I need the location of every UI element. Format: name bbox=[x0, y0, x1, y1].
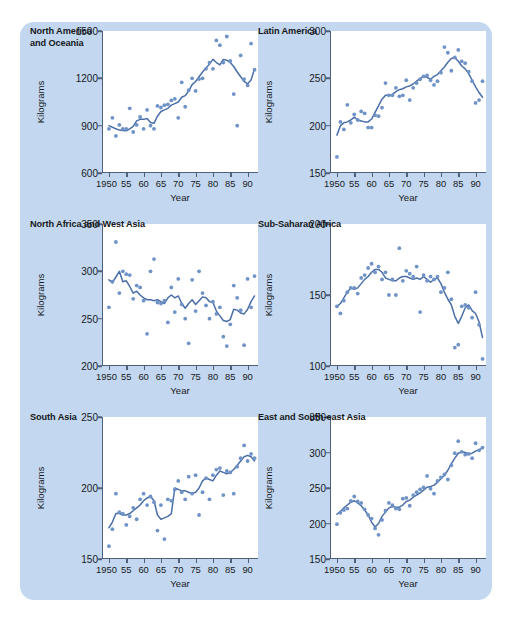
plot-wrap bbox=[102, 31, 258, 173]
x-tick-mark bbox=[458, 173, 460, 177]
data-point bbox=[335, 522, 339, 526]
y-tick-mark bbox=[98, 172, 102, 174]
data-point bbox=[397, 94, 401, 98]
data-point bbox=[111, 527, 115, 531]
data-point bbox=[187, 475, 191, 479]
data-point bbox=[107, 127, 111, 131]
x-tick-label: 1950 bbox=[96, 564, 117, 575]
data-point bbox=[176, 277, 180, 281]
x-axis-title: Year bbox=[330, 385, 486, 396]
plot-svg bbox=[330, 224, 486, 366]
data-point bbox=[377, 533, 381, 537]
data-point bbox=[156, 529, 160, 533]
y-tick-label: 900 bbox=[81, 120, 98, 131]
data-point bbox=[470, 456, 474, 460]
data-point bbox=[208, 317, 212, 321]
data-point bbox=[429, 78, 433, 82]
x-tick-label: 55 bbox=[349, 178, 359, 189]
x-tick-label: 55 bbox=[121, 371, 131, 382]
x-tick-label: 80 bbox=[208, 564, 218, 575]
x-tick-label: 85 bbox=[225, 178, 235, 189]
y-tick-mark bbox=[98, 125, 102, 127]
x-tick-mark bbox=[406, 366, 408, 370]
x-tick-label: 55 bbox=[121, 564, 131, 575]
data-point bbox=[131, 297, 135, 301]
data-point bbox=[169, 286, 173, 290]
data-point bbox=[467, 306, 471, 310]
data-point bbox=[121, 512, 125, 516]
data-point bbox=[235, 124, 239, 128]
y-tick-labels: 100150200 bbox=[298, 224, 326, 366]
data-point bbox=[107, 544, 111, 548]
data-point bbox=[453, 56, 457, 60]
data-point bbox=[228, 59, 232, 63]
data-point bbox=[422, 485, 426, 489]
x-axis-title: Year bbox=[330, 192, 486, 203]
x-tick-mark bbox=[230, 173, 232, 177]
y-tick-label: 300 bbox=[81, 266, 98, 277]
data-point bbox=[397, 246, 401, 250]
data-point bbox=[152, 257, 156, 261]
x-tick-mark bbox=[476, 366, 478, 370]
data-point bbox=[221, 335, 225, 339]
data-point bbox=[242, 77, 246, 81]
data-point bbox=[194, 473, 198, 477]
data-point bbox=[363, 111, 367, 115]
data-point bbox=[204, 304, 208, 308]
data-point bbox=[439, 71, 443, 75]
data-point bbox=[384, 270, 388, 274]
x-tick-label: 1950 bbox=[324, 178, 345, 189]
data-point bbox=[114, 134, 118, 138]
y-axis-title: Kilograms bbox=[35, 81, 46, 124]
data-point bbox=[387, 93, 391, 97]
data-point bbox=[384, 509, 388, 513]
data-point bbox=[138, 497, 142, 501]
data-point bbox=[460, 304, 464, 308]
x-tick-label: 60 bbox=[138, 178, 148, 189]
y-tick-mark bbox=[98, 318, 102, 320]
panel-title: North America and Oceania bbox=[30, 26, 92, 49]
data-point bbox=[363, 507, 367, 511]
data-point bbox=[425, 279, 429, 283]
x-tick-mark bbox=[337, 173, 339, 177]
y-tick-labels: 150200250 bbox=[70, 417, 98, 559]
data-point bbox=[221, 61, 225, 65]
x-tick-label: 75 bbox=[418, 178, 428, 189]
data-point bbox=[218, 43, 222, 47]
y-tick-mark bbox=[326, 294, 330, 296]
x-tick-mark bbox=[109, 366, 111, 370]
x-tick-label: 75 bbox=[190, 371, 200, 382]
data-point bbox=[366, 266, 370, 270]
x-tick-label: 70 bbox=[173, 178, 183, 189]
data-point bbox=[366, 126, 370, 130]
data-point bbox=[197, 513, 201, 517]
plot-svg bbox=[102, 31, 258, 173]
data-point bbox=[169, 99, 173, 103]
data-point bbox=[377, 265, 381, 269]
data-point bbox=[345, 290, 349, 294]
data-point bbox=[425, 74, 429, 78]
data-point bbox=[404, 78, 408, 82]
data-point bbox=[404, 269, 408, 273]
data-point bbox=[359, 501, 363, 505]
x-tick-mark bbox=[458, 366, 460, 370]
data-point bbox=[128, 106, 132, 110]
data-point bbox=[429, 487, 433, 491]
x-tick-mark bbox=[109, 173, 111, 177]
data-point bbox=[422, 75, 426, 79]
data-point bbox=[436, 275, 440, 279]
x-tick-label: 1950 bbox=[324, 371, 345, 382]
data-point bbox=[408, 272, 412, 276]
data-point bbox=[397, 507, 401, 511]
y-tick-labels: 60090012001500 bbox=[70, 31, 98, 173]
data-point bbox=[443, 473, 447, 477]
data-point bbox=[446, 478, 450, 482]
data-point bbox=[380, 106, 384, 110]
data-point bbox=[463, 61, 467, 65]
data-point bbox=[142, 492, 146, 496]
data-point bbox=[418, 488, 422, 492]
data-point bbox=[415, 81, 419, 85]
y-axis-title: Kilograms bbox=[35, 467, 46, 510]
x-tick-label: 60 bbox=[366, 371, 376, 382]
data-point bbox=[352, 286, 356, 290]
